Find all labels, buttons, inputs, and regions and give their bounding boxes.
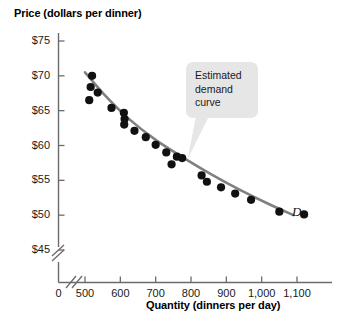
plot-area: D — [0, 0, 338, 319]
data-point — [152, 141, 160, 149]
data-point — [107, 104, 115, 112]
x-tick-label: 1,100 — [274, 287, 320, 299]
y-tick-label: $75 — [16, 34, 50, 46]
data-point — [231, 189, 239, 197]
data-point — [88, 72, 96, 80]
y-axis-title: Price (dollars per dinner) — [14, 7, 142, 19]
x-axis-title: Quantity (dinners per day) — [146, 299, 280, 311]
data-point — [87, 83, 95, 91]
y-tick-label: $70 — [16, 69, 50, 81]
demand-curve-chart: Price (dollars per dinner) Quantity (din… — [0, 0, 338, 319]
data-point — [142, 133, 150, 141]
callout-line-3: curve — [195, 96, 250, 110]
callout-line-1: Estimated — [195, 69, 250, 83]
data-point — [167, 160, 175, 168]
data-point — [247, 196, 255, 204]
data-point — [85, 96, 93, 104]
callout-line-2: demand — [195, 83, 250, 97]
y-axis-break-icon — [52, 245, 64, 261]
y-axis-ticks — [59, 41, 65, 250]
data-point — [203, 178, 211, 186]
data-point — [217, 183, 225, 191]
y-tick-label: $65 — [16, 104, 50, 116]
origin-label: 0 — [36, 287, 82, 299]
data-point — [162, 148, 170, 156]
x-axis-ticks — [85, 277, 297, 283]
y-tick-label: $45 — [16, 243, 50, 255]
data-point — [130, 127, 138, 135]
data-point — [178, 154, 186, 162]
demand-curve-label: D — [291, 204, 302, 219]
data-point — [94, 88, 102, 96]
data-point — [198, 171, 206, 179]
y-tick-label: $60 — [16, 139, 50, 151]
data-point — [275, 208, 283, 216]
data-point — [120, 121, 128, 129]
y-tick-label: $55 — [16, 173, 50, 185]
estimated-demand-curve-callout: Estimated demand curve — [186, 62, 258, 118]
callout-tail — [188, 114, 211, 159]
y-tick-label: $50 — [16, 208, 50, 220]
